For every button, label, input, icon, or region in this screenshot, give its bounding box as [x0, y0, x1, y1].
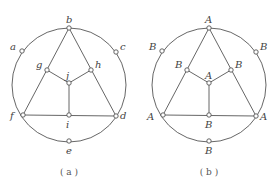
node-a: [20, 49, 24, 53]
caption-a: ( a ): [60, 167, 78, 177]
node-f: [21, 113, 25, 117]
figure-a: b a c g h j f i d e ( a ): [9, 14, 126, 177]
label-i: i: [66, 119, 69, 130]
label-a: a: [10, 41, 16, 52]
node-j: [67, 81, 71, 85]
graph-diagram: b a c g h j f i d e ( a ) A B B B B A: [0, 0, 275, 189]
node-b: [207, 26, 211, 30]
label-c: c: [120, 41, 126, 52]
label-j: j: [64, 70, 69, 81]
edge-h-j: [209, 70, 231, 83]
node-h: [89, 68, 93, 72]
label-g: B: [174, 59, 182, 70]
node-f: [161, 113, 165, 117]
node-a: [160, 49, 164, 53]
node-b: [67, 26, 71, 30]
label-b: b: [66, 14, 72, 25]
edge-h-j: [69, 70, 91, 83]
node-e: [67, 139, 71, 143]
node-e: [207, 139, 211, 143]
label-i: B: [204, 119, 212, 130]
label-d: A: [259, 111, 267, 122]
node-g: [185, 68, 189, 72]
label-d: d: [120, 110, 126, 121]
label-h: h: [95, 59, 101, 70]
label-b: A: [204, 14, 212, 25]
label-a: B: [148, 41, 156, 52]
node-c: [254, 50, 258, 54]
label-e: B: [204, 145, 212, 156]
node-d: [254, 114, 258, 118]
label-f: f: [9, 110, 16, 121]
caption-b: ( b ): [200, 167, 219, 177]
label-e: e: [66, 145, 72, 156]
label-j: A: [204, 70, 212, 81]
node-h: [229, 68, 233, 72]
label-f: A: [146, 111, 154, 122]
node-g: [45, 68, 49, 72]
node-j: [207, 81, 211, 85]
label-h: B: [234, 59, 242, 70]
node-c: [114, 50, 118, 54]
label-g: g: [36, 59, 42, 70]
node-i: [67, 113, 71, 117]
node-i: [207, 113, 211, 117]
figure-b: A B B B B A A B A B ( b ): [146, 14, 267, 177]
node-d: [114, 114, 118, 118]
label-c: B: [259, 41, 267, 52]
